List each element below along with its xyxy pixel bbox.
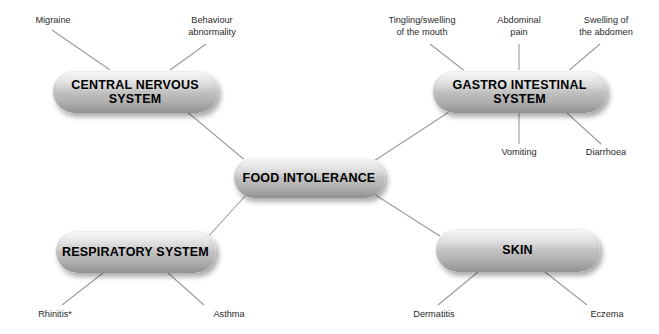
node-central-nervous-system-label: CENTRAL NERVOUS SYSTEM [52, 78, 218, 106]
leaf-asthma: Asthma [188, 309, 270, 321]
connector-skin-eczema [545, 272, 587, 305]
connector-skin-dermatitis [438, 272, 478, 305]
leaf-diarrhoea: Diarrhoea [562, 147, 650, 159]
node-skin-label: SKIN [502, 243, 533, 257]
node-skin[interactable]: SKIN [435, 228, 600, 272]
connector-cns-behaviour [170, 44, 206, 70]
diagram-canvas: FOOD INTOLERANCE CENTRAL NERVOUS SYSTEM … [0, 0, 659, 334]
leaf-tingling-swelling-of-the-mouth: Tingling/swelling of the mouth [368, 15, 476, 39]
connector-cns-migraine [52, 30, 110, 70]
connector-gi-tingling [430, 44, 466, 72]
connector-center-gi [374, 112, 449, 161]
connector-center-skin [374, 194, 446, 240]
node-central-nervous-system[interactable]: CENTRAL NERVOUS SYSTEM [52, 70, 218, 113]
connector-center-cns [186, 111, 246, 161]
leaf-vomiting: Vomiting [478, 147, 560, 159]
leaf-abdominal-pain: Abdominal pain [477, 15, 561, 39]
node-respiratory-system-label: RESPIRATORY SYSTEM [62, 245, 209, 259]
connector-center-resp [207, 195, 246, 238]
node-food-intolerance-label: FOOD INTOLERANCE [243, 171, 376, 185]
connector-gi-swelling [567, 44, 600, 72]
connector-resp-asthma [168, 273, 204, 305]
leaf-rhinitis: Rhinitis* [14, 309, 96, 321]
node-gastro-intestinal-system-label: GASTRO INTESTINAL SYSTEM [432, 78, 607, 106]
connector-gi-diarrhoea [567, 113, 601, 144]
leaf-swelling-of-the-abdomen: Swelling of the abdomen [558, 15, 654, 39]
leaf-migraine: Migraine [8, 15, 98, 27]
node-food-intolerance[interactable]: FOOD INTOLERANCE [233, 157, 385, 198]
leaf-dermatitis: Dermatitis [392, 309, 476, 321]
node-gastro-intestinal-system[interactable]: GASTRO INTESTINAL SYSTEM [432, 70, 607, 113]
leaf-behaviour-abnormality: Behaviour abnormality [166, 15, 258, 39]
leaf-eczema: Eczema [566, 309, 648, 321]
node-respiratory-system[interactable]: RESPIRATORY SYSTEM [55, 230, 216, 273]
connector-resp-rhinitis [62, 273, 103, 305]
